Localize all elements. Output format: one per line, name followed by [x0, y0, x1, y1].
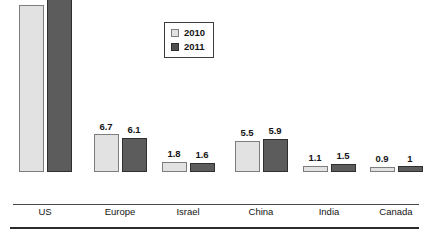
bar-value-label: 6.1 [127, 125, 140, 135]
bar-china-2010 [235, 141, 260, 172]
bar-group-inner: 5.55.9 [232, 0, 290, 172]
bar-europe-2011 [122, 138, 147, 172]
bar-group-inner: 29.632.6 [16, 0, 74, 172]
category-label-india: India [300, 207, 358, 217]
bar-india-2010 [303, 166, 328, 172]
bar-group: 1.11.5 [300, 0, 358, 172]
bar-group: 29.632.6 [16, 0, 74, 172]
bar-group: 6.76.1 [91, 0, 149, 172]
bar-us-2011 [47, 0, 72, 172]
x-axis-line [13, 204, 419, 205]
legend-entry-2010: 2010 [171, 27, 205, 39]
bar-column: 0.9 [370, 0, 395, 172]
bar-group: 0.91 [367, 0, 425, 172]
bar-value-label: 0.9 [375, 154, 388, 164]
bar-column: 5.9 [263, 0, 288, 172]
legend-swatch-2010-icon [171, 29, 179, 37]
bar-value-label: 1.6 [195, 150, 208, 160]
category-label-israel: Israel [159, 207, 217, 217]
bar-column: 6.1 [122, 0, 147, 172]
bar-value-label: 1.5 [336, 151, 349, 161]
bar-canada-2010 [370, 167, 395, 172]
bar-value-label: 6.7 [99, 122, 112, 132]
chart-legend: 2010 2011 [164, 22, 214, 58]
bar-group-inner: 0.91 [367, 0, 425, 172]
category-label-us: US [16, 207, 74, 217]
bar-chart-figure: 29.632.66.76.11.81.65.55.91.11.50.91 USE… [0, 0, 429, 237]
bar-group-inner: 6.76.1 [91, 0, 149, 172]
legend-swatch-2011-icon [171, 43, 179, 51]
legend-label-2010: 2010 [184, 28, 205, 38]
bar-value-label: 29.6 [22, 0, 41, 2]
bar-value-label: 1.8 [167, 149, 180, 159]
bar-value-label: 1 [407, 154, 412, 164]
legend-entry-2011: 2011 [171, 41, 205, 53]
bar-europe-2010 [94, 134, 119, 172]
figure-bottom-rule [10, 227, 419, 229]
bar-column: 29.6 [19, 0, 44, 172]
bar-column: 1.1 [303, 0, 328, 172]
bar-column: 1 [398, 0, 423, 172]
bar-group: 5.55.9 [232, 0, 290, 172]
bar-column: 1.5 [331, 0, 356, 172]
bar-india-2011 [331, 164, 356, 172]
bar-value-label: 1.1 [308, 153, 321, 163]
bar-value-label: 5.9 [268, 126, 281, 136]
bar-column: 6.7 [94, 0, 119, 172]
category-label-europe: Europe [91, 207, 149, 217]
bar-group-inner: 1.11.5 [300, 0, 358, 172]
bar-column: 32.6 [47, 0, 72, 172]
bar-column: 5.5 [235, 0, 260, 172]
bar-israel-2010 [162, 162, 187, 172]
bar-value-label: 5.5 [240, 128, 253, 138]
bar-canada-2011 [398, 166, 423, 172]
category-label-canada: Canada [367, 207, 425, 217]
bar-china-2011 [263, 139, 288, 172]
bar-israel-2011 [190, 163, 215, 172]
legend-label-2011: 2011 [184, 42, 205, 52]
bar-us-2010 [19, 5, 44, 172]
category-label-china: China [232, 207, 290, 217]
plot-area: 29.632.66.76.11.81.65.55.91.11.50.91 USE… [0, 0, 429, 205]
